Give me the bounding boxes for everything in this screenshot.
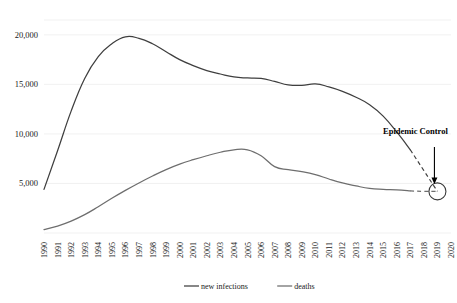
epidemic-control-label: Epidemic Control [383,126,448,136]
x-tick-label-2006: 2006 [257,242,266,258]
x-axis-tick-labels: 1990199119921993199419951996199719981999… [40,242,456,258]
projection-deaths [410,191,437,192]
x-tick-label-2002: 2002 [203,242,212,258]
epidemic-trend-chart: 5,00010,00015,00020,000 1990199119921993… [0,0,457,303]
x-tick-label-1996: 1996 [121,242,130,258]
epidemic-control-annotation: Epidemic Control [383,126,448,200]
x-tick-label-2013: 2013 [352,242,361,258]
y-tick-label-20000: 20,000 [15,30,38,40]
x-tick-label-1991: 1991 [54,242,63,258]
x-tick-label-2020: 2020 [447,242,456,258]
x-tick-label-2007: 2007 [271,242,280,258]
x-tick-label-2010: 2010 [311,242,320,258]
x-tick-label-2000: 2000 [176,242,185,258]
series-deaths [44,149,437,229]
x-tick-label-2008: 2008 [284,242,293,258]
y-tick-label-15000: 15,000 [15,79,38,89]
x-tick-label-2005: 2005 [244,242,253,258]
projection-new-infections [410,150,437,192]
x-tick-label-1997: 1997 [135,242,144,258]
y-axis-tick-labels: 5,00010,00015,00020,000 [15,30,38,189]
x-tick-label-1993: 1993 [81,242,90,258]
legend-label-deaths: deaths [294,282,314,291]
line-new-infections [44,36,410,189]
x-tick-label-2003: 2003 [216,242,225,258]
x-tick-label-2018: 2018 [420,242,429,258]
line-deaths [44,149,410,229]
x-tick-label-2015: 2015 [379,242,388,258]
x-tick-label-1995: 1995 [108,242,117,258]
chart-legend: new infectionsdeaths [184,282,315,291]
legend-label-new-infections: new infections [201,282,248,291]
x-tick-label-2014: 2014 [366,242,375,258]
x-tick-label-2012: 2012 [338,242,347,258]
x-tick-label-2017: 2017 [406,242,415,258]
x-tick-label-1992: 1992 [67,242,76,258]
x-tick-label-1999: 1999 [162,242,171,258]
chart-page: 5,00010,00015,00020,000 1990199119921993… [0,0,457,303]
x-tick-label-1990: 1990 [40,242,49,258]
x-tick-label-2009: 2009 [298,242,307,258]
x-tick-label-1998: 1998 [149,242,158,258]
series-new-infections [44,36,437,191]
x-tick-label-2001: 2001 [189,242,198,258]
x-tick-label-1994: 1994 [94,242,103,258]
x-tick-label-2019: 2019 [433,242,442,258]
x-tick-label-2016: 2016 [393,242,402,258]
x-tick-label-2004: 2004 [230,242,239,258]
y-tick-label-10000: 10,000 [15,129,38,139]
y-tick-label-5000: 5,000 [19,178,38,188]
x-tick-label-2011: 2011 [325,242,334,258]
